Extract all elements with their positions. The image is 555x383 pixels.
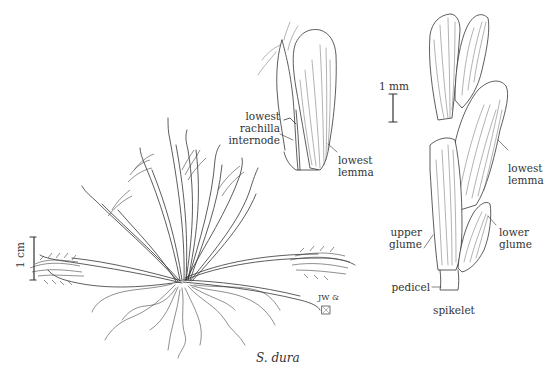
label-line: lemma: [508, 174, 544, 186]
label-lower-glume: lower glume: [499, 226, 532, 250]
panicle-right: [290, 246, 350, 280]
label-line: glume: [384, 238, 422, 250]
scale-bar-habit-label: 1 cm: [14, 242, 26, 268]
figure-caption: S. dura: [256, 351, 300, 365]
panicle-center-left: [108, 154, 154, 216]
label-line: lowest: [508, 162, 544, 174]
label-line: glume: [499, 238, 532, 250]
botanical-illustration: [0, 0, 555, 383]
rachilla-detail-drawing: [258, 22, 337, 170]
panicle-left: [30, 253, 84, 285]
label-line: internode: [222, 134, 280, 146]
label-line: lower: [499, 226, 532, 238]
label-spikelet: spikelet: [433, 304, 475, 316]
label-line: lowest: [222, 110, 280, 122]
label-lowest-lemma-spikelet: lowest lemma: [508, 162, 544, 186]
label-lowest-lemma-detail: lowest lemma: [338, 154, 374, 178]
scale-bar-detail-label: 1 mm: [378, 80, 410, 92]
label-line: lowest: [338, 154, 374, 166]
label-line: rachilla: [222, 122, 280, 134]
artist-signature: JW &: [318, 292, 339, 304]
label-lowest-rachilla-internode: lowest rachilla internode: [222, 110, 280, 146]
label-upper-glume: upper glume: [384, 226, 422, 250]
label-line: lemma: [338, 166, 374, 178]
label-line: upper: [384, 226, 422, 238]
label-pedicel: pedicel: [384, 281, 430, 293]
plant-habit-drawing: [30, 118, 355, 358]
